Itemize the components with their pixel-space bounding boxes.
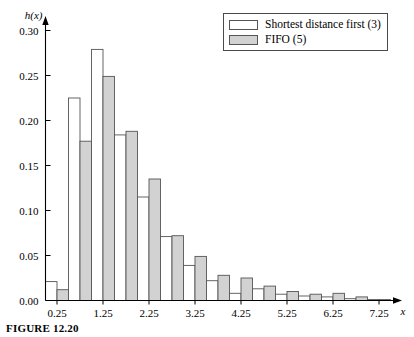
y-tick-label: 0.15 [19, 160, 39, 172]
bar-fifo [264, 286, 276, 300]
x-axis-title: x [400, 305, 406, 317]
x-tick-label: 4.25 [231, 307, 251, 319]
bar-fifo [287, 292, 299, 301]
bar-shortest-distance-first [138, 197, 150, 301]
bars-group [46, 49, 391, 300]
x-tick-label: 7.25 [369, 307, 389, 319]
y-tick-label: 0.20 [19, 115, 39, 127]
x-tick-label: 1.25 [93, 307, 113, 319]
legend-item-shortest-distance-first: Shortest distance first (3) [229, 17, 381, 32]
x-axis: 0.251.252.253.254.255.256.257.25 [47, 301, 389, 319]
bar-shortest-distance-first [299, 296, 311, 301]
bar-fifo [195, 256, 207, 300]
x-tick-label: 0.25 [47, 307, 67, 319]
bar-shortest-distance-first [253, 289, 265, 301]
bar-fifo [218, 275, 230, 300]
legend-swatch-gray-icon [229, 35, 258, 45]
bar-fifo [149, 179, 161, 301]
legend-swatch-white-icon [229, 20, 258, 30]
bar-fifo [241, 278, 253, 301]
figure-container: 0.000.050.100.150.200.250.30 0.251.252.2… [0, 0, 414, 337]
bar-fifo [126, 131, 138, 300]
bar-shortest-distance-first [69, 98, 81, 301]
x-tick-label: 6.25 [323, 307, 343, 319]
bar-fifo [333, 293, 345, 300]
bar-shortest-distance-first [115, 135, 127, 301]
y-tick-label: 0.25 [19, 70, 39, 82]
legend-item-fifo: FIFO (5) [229, 32, 381, 47]
y-tick-label: 0.30 [19, 25, 39, 37]
x-tick-label: 5.25 [277, 307, 297, 319]
legend-label-fifo: FIFO (5) [265, 33, 306, 46]
legend-label-shortest-distance-first: Shortest distance first (3) [265, 18, 381, 31]
y-tick-label: 0.05 [19, 250, 39, 262]
bar-shortest-distance-first [230, 293, 242, 300]
bar-fifo [57, 290, 69, 301]
bar-shortest-distance-first [46, 282, 58, 301]
figure-caption: FIGURE 12.20 [6, 322, 79, 334]
chart-legend: Shortest distance first (3) FIFO (5) [223, 13, 388, 51]
y-tick-label: 0.00 [19, 295, 39, 307]
bar-fifo [310, 294, 322, 300]
bar-shortest-distance-first [184, 265, 196, 300]
y-tick-label: 0.10 [19, 205, 39, 217]
bar-shortest-distance-first [207, 281, 219, 301]
bar-shortest-distance-first [276, 294, 288, 300]
x-tick-label: 2.25 [139, 307, 159, 319]
y-axis-title: h(x) [25, 9, 43, 22]
bar-shortest-distance-first [92, 49, 104, 300]
bar-shortest-distance-first [161, 237, 173, 301]
bar-fifo [172, 236, 184, 301]
bar-fifo [80, 141, 92, 300]
x-tick-label: 3.25 [185, 307, 205, 319]
bar-fifo [103, 76, 115, 300]
